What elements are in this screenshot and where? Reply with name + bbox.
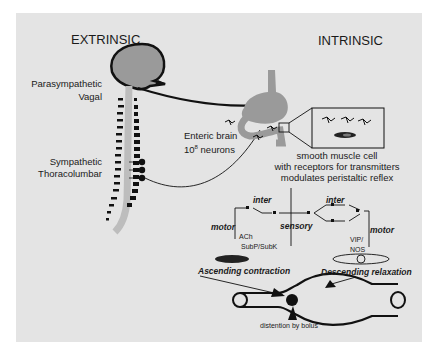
label-enteric-brain: Enteric brain [184,131,237,141]
synapse-dots [246,203,359,222]
relaxed-muscle-cell [333,254,389,264]
label-descending-relaxation: Descending relaxation [321,268,412,277]
heading-intrinsic: INTRINSIC [318,34,383,47]
heading-extrinsic: EXTRINSIC [71,33,140,46]
label-inter-right: inter [326,196,344,205]
label-ascending-contraction: Ascending contraction [198,267,290,276]
label-smooth-muscle-2: with receptors for transmitters [253,162,421,172]
label-distention: distention by bolus [260,322,318,329]
label-parasympathetic: Parasympathetic [31,79,102,89]
label-sensory: sensory [280,222,313,231]
bolus-icon [286,294,298,306]
brain-icon [111,44,166,89]
label-smooth-muscle-3: modulates peristaltic reflex [253,173,421,183]
label-motor-left: motor [211,223,235,232]
label-vagal: Vagal [78,92,102,102]
label-smooth-muscle-1: smooth muscle cell [253,151,421,161]
label-neuron-count: 108 neurons [184,144,235,155]
label-vip: VIP/ [350,236,363,243]
label-inter-left: inter [253,196,271,205]
smooth-muscle-inset [289,108,384,148]
label-subp: SubP/SubK [241,243,277,250]
stomach-icon [241,70,289,143]
label-nos: NOS [350,246,365,253]
label-motor-right: motor [370,226,394,235]
spinal-cord-icon [106,86,145,232]
contracted-muscle-cell [215,255,249,263]
gut-tube [200,274,405,325]
label-ach: ACh [239,233,253,240]
label-sympathetic: Sympathetic [50,157,102,167]
label-thoracolumbar: Thoracolumbar [38,169,102,179]
